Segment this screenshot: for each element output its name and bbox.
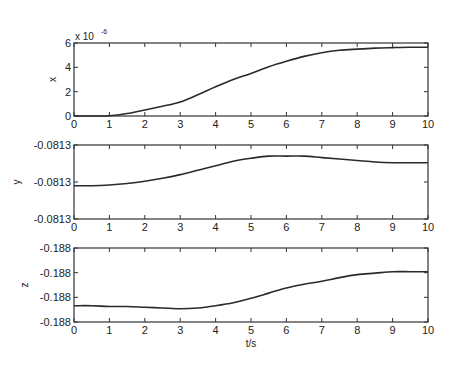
x-tick-label: 2 bbox=[142, 118, 148, 130]
x-tick-label: 1 bbox=[106, 324, 112, 336]
x-axis-label: t/s bbox=[246, 338, 257, 349]
y-tick-label: -0.0813 bbox=[34, 139, 71, 151]
axes-frame bbox=[74, 248, 428, 322]
x-tick-label: 9 bbox=[390, 221, 396, 233]
x-tick-label: 7 bbox=[319, 221, 325, 233]
y-tick-label: -0.0813 bbox=[34, 213, 71, 225]
y-tick-label: -0.188 bbox=[40, 242, 71, 254]
x-tick-label: 4 bbox=[213, 324, 219, 336]
x-tick-label: 3 bbox=[177, 324, 183, 336]
y-tick-label: -0.188 bbox=[40, 291, 71, 303]
y-multiplier-exponent: -6 bbox=[101, 28, 107, 35]
x-tick-label: 2 bbox=[142, 221, 148, 233]
series-line-x bbox=[74, 47, 428, 116]
y-tick-label: -0.188 bbox=[40, 316, 71, 328]
x-tick-label: 8 bbox=[354, 221, 360, 233]
x-tick-label: 10 bbox=[422, 324, 434, 336]
y-tick-label: 2 bbox=[65, 86, 71, 98]
x-tick-label: 4 bbox=[213, 118, 219, 130]
x-tick-label: 5 bbox=[248, 221, 254, 233]
x-tick-label: 2 bbox=[142, 324, 148, 336]
axes-frame bbox=[74, 145, 428, 219]
axes-frame bbox=[74, 43, 428, 116]
x-tick-label: 0 bbox=[71, 221, 77, 233]
y-multiplier-label: x 10 bbox=[75, 31, 94, 42]
x-tick-label: 9 bbox=[390, 118, 396, 130]
x-tick-label: 3 bbox=[177, 221, 183, 233]
x-tick-label: 6 bbox=[283, 324, 289, 336]
x-tick-label: 4 bbox=[213, 221, 219, 233]
y-axis-label: x bbox=[47, 77, 58, 82]
subplot-y: 012345678910-0.0813-0.0813-0.0813y bbox=[11, 139, 434, 233]
subplot-z: 012345678910-0.188-0.188-0.188-0.188zt/s bbox=[19, 242, 434, 349]
series-line-z bbox=[74, 272, 428, 309]
y-tick-label: -0.188 bbox=[40, 267, 71, 279]
subplot-x: 0123456789100246xx 10-6 bbox=[47, 28, 434, 130]
y-tick-label: 6 bbox=[65, 37, 71, 49]
y-axis-label: z bbox=[19, 283, 30, 288]
x-tick-label: 0 bbox=[71, 118, 77, 130]
x-tick-label: 5 bbox=[248, 118, 254, 130]
x-tick-label: 5 bbox=[248, 324, 254, 336]
x-tick-label: 10 bbox=[422, 118, 434, 130]
x-tick-label: 10 bbox=[422, 221, 434, 233]
figure: 0123456789100246xx 10-6012345678910-0.08… bbox=[0, 0, 459, 367]
y-tick-label: 4 bbox=[65, 61, 71, 73]
y-tick-label: -0.0813 bbox=[34, 176, 71, 188]
x-tick-label: 0 bbox=[71, 324, 77, 336]
x-tick-label: 8 bbox=[354, 324, 360, 336]
x-tick-label: 3 bbox=[177, 118, 183, 130]
x-tick-label: 9 bbox=[390, 324, 396, 336]
x-tick-label: 1 bbox=[106, 118, 112, 130]
x-tick-label: 1 bbox=[106, 221, 112, 233]
x-tick-label: 6 bbox=[283, 221, 289, 233]
x-tick-label: 6 bbox=[283, 118, 289, 130]
y-tick-label: 0 bbox=[65, 110, 71, 122]
x-tick-label: 7 bbox=[319, 324, 325, 336]
series-line-y bbox=[74, 156, 428, 186]
x-tick-label: 8 bbox=[354, 118, 360, 130]
x-tick-label: 7 bbox=[319, 118, 325, 130]
y-axis-label: y bbox=[11, 180, 22, 185]
